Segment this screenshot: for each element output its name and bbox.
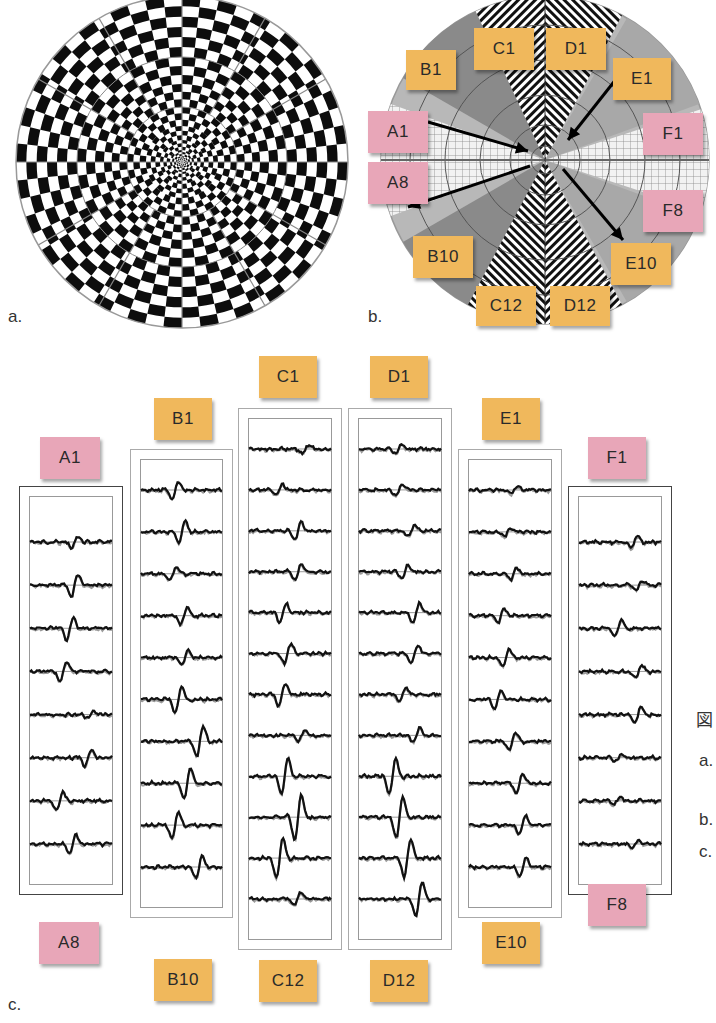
column-tag-a8: A8 xyxy=(39,922,99,964)
map-tag-c1: C1 xyxy=(474,28,534,70)
column-tag-f8: F8 xyxy=(588,884,646,926)
column-tag-d12: D12 xyxy=(370,960,428,1002)
column-tag-e1: E1 xyxy=(482,398,540,440)
waveform-traces xyxy=(131,450,232,917)
waveform-column-a xyxy=(19,486,123,895)
column-tag-b10: B10 xyxy=(154,959,212,1001)
column-tag-e10: E10 xyxy=(482,922,540,964)
panel-c-label: c. xyxy=(8,995,21,1015)
waveform-column-f xyxy=(568,486,672,895)
map-tag-d1: D1 xyxy=(546,28,606,70)
column-tag-a1: A1 xyxy=(40,437,100,479)
column-tag-c1: C1 xyxy=(259,356,317,398)
caption-c: c. xyxy=(699,842,712,862)
map-tag-a8: A8 xyxy=(368,162,428,204)
map-tag-e10: E10 xyxy=(611,243,671,285)
waveform-traces xyxy=(239,409,341,949)
waveform-traces xyxy=(459,450,561,917)
column-tag-d1: D1 xyxy=(370,356,428,398)
column-tag-c12: C12 xyxy=(259,960,317,1002)
waveform-traces xyxy=(20,487,122,894)
waveform-column-d xyxy=(348,408,452,950)
panel-a-checkerboard xyxy=(12,0,352,332)
waveform-traces xyxy=(569,487,671,894)
waveform-column-b xyxy=(130,449,233,918)
caption-b: b. xyxy=(699,810,713,830)
radial-checkerboard-graphic xyxy=(12,0,352,332)
map-tag-b1: B1 xyxy=(406,50,456,90)
caption-kanji: 図 xyxy=(696,706,713,731)
map-tag-d12: D12 xyxy=(550,286,610,326)
waveform-column-e xyxy=(458,449,562,918)
map-tag-a1: A1 xyxy=(368,111,428,153)
caption-a: a. xyxy=(699,751,713,771)
map-tag-b10: B10 xyxy=(413,236,473,278)
column-tag-b1: B1 xyxy=(154,398,212,440)
panel-a-label: a. xyxy=(8,307,22,327)
column-tag-f1: F1 xyxy=(588,437,646,479)
map-tag-f1: F1 xyxy=(643,113,703,155)
panel-b-label: b. xyxy=(368,307,382,327)
waveform-column-c xyxy=(238,408,342,950)
map-tag-e1: E1 xyxy=(613,58,671,100)
waveform-traces xyxy=(349,409,451,949)
map-tag-f8: F8 xyxy=(643,190,703,232)
map-tag-c12: C12 xyxy=(476,286,536,326)
